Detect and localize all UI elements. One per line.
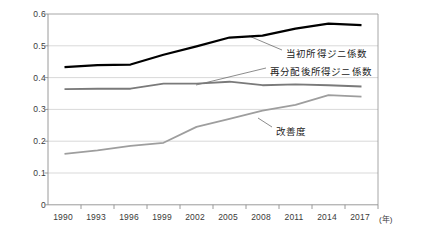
x-axis-tick-label: 2008 — [245, 212, 278, 222]
x-axis-tick-label: 1996 — [113, 212, 146, 222]
leader-line-shoki — [249, 36, 282, 50]
gini-coefficient-line-chart: 0.6 0.5 0.4 0.3 0.2 0.1 0 — [0, 0, 428, 237]
x-axis-tick-label: 2002 — [179, 212, 212, 222]
series-line-saibunpai-go — [65, 82, 362, 89]
x-axis-unit-label: (年) — [379, 213, 392, 224]
x-axis-ticks — [81, 205, 378, 209]
x-axis-tick-label: 1990 — [47, 212, 80, 222]
series-line-kaizendo — [65, 95, 362, 154]
annotation-leader-lines — [196, 36, 282, 127]
series-annotation-saibunpai-go: 再分配後所得ジニ係数 — [270, 64, 372, 78]
x-axis-tick-label: 1993 — [80, 212, 113, 222]
y-axis-ticks — [45, 14, 49, 205]
x-axis-tick-label: 2005 — [212, 212, 245, 222]
leader-line-kaizendo — [258, 118, 272, 127]
x-axis-tick-label: 2014 — [311, 212, 344, 222]
chart-canvas — [0, 0, 428, 237]
series-annotation-kaizendo: 改善度 — [276, 124, 307, 138]
x-axis-tick-label: 2017 — [344, 212, 377, 222]
x-axis-tick-label: 2011 — [278, 212, 311, 222]
x-axis-tick-label: 1999 — [146, 212, 179, 222]
series-annotation-shoki-shotoku: 当初所得ジニ係数 — [286, 46, 368, 60]
